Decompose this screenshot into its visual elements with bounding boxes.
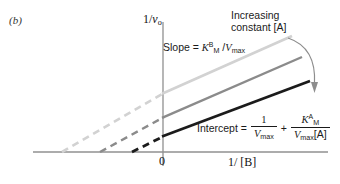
intercept-plus-sign: + <box>280 122 288 134</box>
slope-vmax-subscript: max <box>232 47 245 55</box>
x-axis-label: 1/ [B] <box>228 156 256 170</box>
intercept-term1-numerator: 1 <box>258 114 269 126</box>
slope-lead: Slope = <box>163 41 202 53</box>
intercept-term1-den-sub: max <box>260 133 273 141</box>
slope-km: K <box>202 42 209 53</box>
increasing-a-note-line2: constant [A] <box>231 21 286 33</box>
origin-label: 0 <box>159 155 165 169</box>
intercept-term2-den-conc: [A] <box>314 128 327 140</box>
figure-panel-b: (b) 1/vo 1/ [B] 0 Increasing constant [A… <box>0 0 340 184</box>
intercept-term1: 1 Vmax <box>251 114 277 141</box>
y-axis-label-one: 1/ <box>143 12 152 26</box>
line-intermediate-a-dashed <box>100 117 164 152</box>
intercept-term2: KAM Vmax[A] <box>291 113 330 142</box>
y-axis-label: 1/vo <box>143 13 162 28</box>
intercept-lead: Intercept = <box>196 122 248 134</box>
intercept-equation: Intercept = 1 Vmax + KAM Vmax[A] <box>196 113 333 142</box>
intercept-term2-numerator: KAM <box>299 113 323 127</box>
intercept-term2-num-k: K <box>302 114 309 125</box>
increasing-a-note: Increasing constant [A] <box>231 9 286 33</box>
intercept-term1-denominator: Vmax <box>251 126 277 141</box>
plot-area <box>0 0 340 184</box>
slope-equation: Slope = KBM /Vmax <box>163 41 245 55</box>
intercept-term2-denominator: Vmax[A] <box>291 127 330 142</box>
intercept-term2-num-subscript: M <box>313 119 319 127</box>
line-intermediate-a-solid <box>162 57 302 118</box>
x-axis-label-variable: [B] <box>240 155 256 169</box>
intercept-term2-den-sub: max <box>300 134 313 142</box>
increasing-a-note-line1: Increasing <box>231 9 286 21</box>
line-highest-a-dashed <box>132 136 164 152</box>
arrowhead-icon <box>311 82 318 93</box>
panel-label: (b) <box>9 14 22 27</box>
y-axis-label-sub: o <box>158 18 162 27</box>
x-axis-label-prefix: 1/ <box>228 155 240 169</box>
